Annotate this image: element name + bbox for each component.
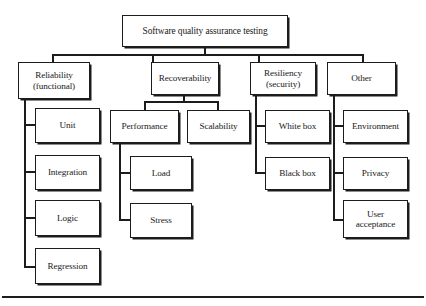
node-user-acceptance[interactable]: User acceptance <box>343 200 408 238</box>
node-label: Resiliency (security) <box>262 68 304 89</box>
node-label: Software quality assurance testing <box>141 26 270 37</box>
node-label: Environment <box>350 121 401 131</box>
node-label: Scalability <box>197 121 239 131</box>
node-label: Reliability (functional) <box>31 70 77 91</box>
node-environment[interactable]: Environment <box>343 110 408 143</box>
node-label: Performance <box>120 121 170 131</box>
node-other[interactable]: Other <box>327 62 396 95</box>
node-label: Load <box>150 168 172 178</box>
connector-other-spine <box>333 94 335 221</box>
bottom-divider <box>2 296 424 298</box>
node-regression[interactable]: Regression <box>35 248 100 284</box>
node-label: Unit <box>58 120 78 130</box>
node-software-quality-assurance-testing[interactable]: Software quality assurance testing <box>122 15 288 47</box>
connector-recoverability-bus <box>144 101 219 103</box>
node-label: Other <box>349 73 373 83</box>
node-label: Privacy <box>360 168 391 178</box>
connector-level2-bus <box>52 54 364 56</box>
node-unit[interactable]: Unit <box>35 108 100 143</box>
connector-performance-spine <box>119 142 121 221</box>
node-label: Recoverability <box>157 73 214 83</box>
node-logic[interactable]: Logic <box>35 200 100 236</box>
node-black-box[interactable]: Black box <box>265 157 330 190</box>
node-label: Integration <box>46 167 89 177</box>
node-load[interactable]: Load <box>130 156 192 190</box>
node-resiliency[interactable]: Resiliency (security) <box>250 62 316 95</box>
node-label: Regression <box>46 261 90 271</box>
node-label: Logic <box>55 213 80 223</box>
hierarchy-diagram: Software quality assurance testing Relia… <box>0 0 426 306</box>
node-scalability[interactable]: Scalability <box>187 110 250 143</box>
node-integration[interactable]: Integration <box>35 155 100 190</box>
node-label: Black box <box>277 168 318 178</box>
node-performance[interactable]: Performance <box>110 110 179 143</box>
node-reliability[interactable]: Reliability (functional) <box>18 62 90 99</box>
node-stress[interactable]: Stress <box>130 203 192 238</box>
connector-resiliency-spine <box>255 94 257 174</box>
node-recoverability[interactable]: Recoverability <box>151 62 219 95</box>
node-label: Stress <box>148 215 173 225</box>
node-label: User acceptance <box>354 209 397 230</box>
node-white-box[interactable]: White box <box>265 110 330 143</box>
node-label: White box <box>277 121 319 131</box>
node-privacy[interactable]: Privacy <box>343 157 408 190</box>
